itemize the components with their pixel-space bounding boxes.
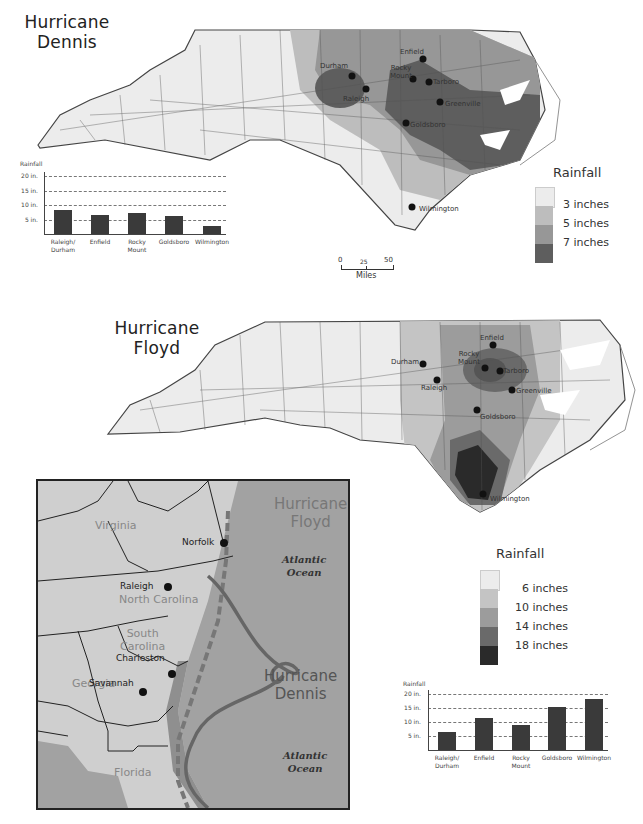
dennis-label-durham: Durham — [320, 62, 348, 70]
legend-label-5in: 5 inches — [563, 217, 609, 230]
dennis-label-mount: Mount — [390, 72, 412, 80]
dennis-bar-goldsboro — [165, 216, 183, 234]
inset-city-norfolk: Norfolk — [182, 537, 214, 547]
floyd-label-raleigh: Raleigh — [421, 384, 447, 392]
inset-track-map: Virginia North Carolina South Carolina G… — [36, 479, 350, 810]
dennis-bar-rocky-mount — [128, 213, 146, 234]
dennis-legend-title: Rainfall — [553, 165, 601, 180]
dennis-label-tarboro: Tarboro — [433, 78, 459, 86]
inset-state-north-carolina: North Carolina — [119, 593, 199, 606]
dennis-grid-20 — [44, 176, 226, 177]
cat-line2: Durham — [41, 246, 85, 254]
dennis-grid-15 — [44, 191, 226, 192]
dennis-x-axis — [44, 234, 226, 235]
dennis-label-goldsboro: Goldsboro — [410, 121, 445, 129]
floyd-bar-raleigh-durham — [438, 732, 456, 750]
floyd-legend-title: Rainfall — [496, 546, 544, 561]
legend-swatch-18in — [480, 646, 498, 665]
floyd-bar-rocky-mount — [512, 725, 530, 750]
floyd-y-axis — [428, 690, 429, 751]
floyd-x-axis — [428, 750, 608, 751]
dennis-chart-ylabel: Rainfall — [20, 160, 42, 167]
floyd-label-greenville: Greenville — [516, 387, 551, 395]
dennis-label-enfield: Enfield — [400, 48, 424, 56]
inset-label-atlantic-ocean-south: Atlantic Ocean — [283, 749, 327, 775]
dennis-tick-15: 15 in. — [14, 187, 38, 194]
dennis-label-wilmington: Wilmington — [419, 205, 459, 213]
legend-swatch-lightest — [480, 570, 500, 591]
floyd-label-wilmington: Wilmington — [490, 495, 530, 503]
floyd-line2: Floyd — [274, 513, 347, 531]
floyd-chart-ylabel: Rainfall — [403, 680, 425, 687]
floyd-grid-15 — [428, 708, 608, 709]
dennis-line2: Dennis — [264, 685, 337, 703]
dennis-y-axis — [44, 172, 45, 235]
sc-line1: South — [120, 627, 165, 640]
dennis-label-greenville: Greenville — [445, 100, 480, 108]
legend-label-14in: 14 inches — [515, 620, 568, 633]
floyd-grid-20 — [428, 694, 608, 695]
cat-line2: Mount — [499, 762, 543, 770]
inset-state-florida: Florida — [114, 766, 151, 779]
scale-tick-0: 0 — [338, 256, 342, 264]
inset-city-charleston: Charleston — [116, 653, 165, 663]
ocean-line1: Atlantic — [283, 749, 327, 762]
legend-swatch-lightest — [535, 187, 555, 208]
legend-label-10in: 10 inches — [515, 601, 568, 614]
legend-label-3in: 3 inches — [563, 198, 609, 211]
legend-label-6in: 6 inches — [522, 582, 568, 595]
floyd-label-enfield: Enfield — [480, 334, 504, 342]
floyd-line1: Hurricane — [274, 495, 347, 513]
inset-city-savannah: Savannah — [89, 678, 134, 688]
dennis-label-rocky: Rocky — [390, 64, 412, 72]
floyd-tick-20: 20 in. — [397, 690, 421, 697]
ocean-line2: Ocean — [283, 762, 327, 775]
legend-swatch-10in — [480, 608, 498, 627]
inset-state-south-carolina: South Carolina — [120, 627, 165, 653]
cat-line1: Wilmington — [190, 238, 234, 246]
floyd-label-rocky: Rocky — [458, 350, 480, 358]
legend-label-18in: 18 inches — [515, 639, 568, 652]
cat-line2: Durham — [425, 762, 469, 770]
dennis-legend: Rainfall 3 inches 5 inches 7 inches — [535, 165, 640, 275]
scale-tick-25: 25 — [360, 258, 368, 265]
floyd-bar-wilmington — [585, 699, 603, 750]
floyd-tick-5: 5 in. — [397, 732, 421, 739]
legend-swatch-6in — [480, 589, 498, 608]
floyd-tick-10: 10 in. — [397, 718, 421, 725]
dennis-label-rocky-mount: Rocky Mount — [390, 64, 412, 80]
floyd-legend: Rainfall 6 inches 10 inches 14 inches 18… — [480, 546, 630, 656]
inset-label-atlantic-ocean-north: Atlantic Ocean — [282, 553, 326, 579]
dennis-line1: Hurricane — [264, 667, 337, 685]
floyd-label-goldsboro: Goldsboro — [480, 413, 515, 421]
floyd-bar-enfield — [475, 718, 493, 750]
floyd-label-mount: Mount — [458, 358, 480, 366]
floyd-bar-chart: Rainfall 20 in. 15 in. 10 in. 5 in. Rale… — [400, 680, 643, 780]
floyd-bar-goldsboro — [548, 707, 566, 750]
sc-line2: Carolina — [120, 640, 165, 653]
ocean-line1: Atlantic — [282, 553, 326, 566]
dennis-grid-10 — [44, 205, 226, 206]
dennis-bar-wilmington — [203, 226, 221, 234]
scale-tick-50: 50 — [384, 256, 393, 264]
inset-city-raleigh: Raleigh — [120, 581, 154, 591]
floyd-grid-10 — [428, 722, 608, 723]
legend-swatch-14in — [480, 627, 498, 646]
dennis-tick-5: 5 in. — [14, 216, 38, 223]
legend-swatch-3in — [535, 206, 553, 225]
cat-line1: Wilmington — [572, 754, 616, 762]
floyd-tick-15: 15 in. — [397, 704, 421, 711]
dennis-bar-chart: Rainfall 20 in. 15 in. 10 in. 5 in. Rale… — [0, 158, 240, 258]
floyd-label-tarboro: Tarboro — [503, 367, 529, 375]
dennis-bar-enfield — [91, 215, 109, 234]
dennis-tick-10: 10 in. — [14, 201, 38, 208]
dennis-label-raleigh: Raleigh — [343, 95, 369, 103]
inset-label-hurricane-floyd: Hurricane Floyd — [274, 495, 347, 531]
floyd-label-durham: Durham — [391, 358, 419, 366]
cat-line2: Mount — [115, 246, 159, 254]
dennis-scale-bar: 0 25 50 Miles — [338, 256, 398, 286]
dennis-bar-raleigh-durham — [54, 210, 72, 234]
dennis-tick-20: 20 in. — [14, 172, 38, 179]
inset-label-hurricane-dennis: Hurricane Dennis — [264, 667, 337, 703]
dennis-cat-wilmington: Wilmington — [190, 238, 234, 246]
